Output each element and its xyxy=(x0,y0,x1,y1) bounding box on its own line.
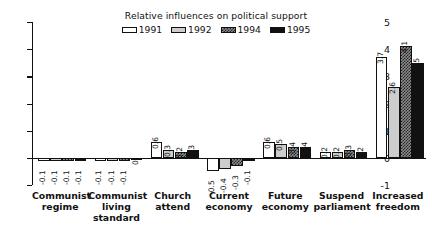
bar[interactable] xyxy=(376,57,388,158)
bar-value-label: -0.1 xyxy=(107,170,116,185)
bar-value-label: 3.5 xyxy=(412,58,421,70)
bar-value-label: -0.3 xyxy=(231,175,240,190)
bar[interactable] xyxy=(388,87,400,158)
bar-value-label: 0.3 xyxy=(187,145,196,157)
chart-root: Relative influences on political support… xyxy=(0,0,432,235)
bar[interactable] xyxy=(75,158,87,161)
bar-value-label: -0.1 xyxy=(38,170,47,185)
category-label: Increasedfreedom xyxy=(370,190,426,212)
bar-value-label: 0.3 xyxy=(344,145,353,157)
bar[interactable] xyxy=(243,158,255,161)
y-axis-line xyxy=(32,22,33,185)
bar-value-label: -0.1 xyxy=(62,170,71,185)
y-tick-2 xyxy=(27,104,32,105)
bar-value-label: 0.2 xyxy=(332,147,341,159)
bar-value-label: 3.7 xyxy=(376,52,385,64)
category-label: Suspendparliament xyxy=(313,190,369,212)
bar[interactable] xyxy=(400,46,412,157)
bar-value-label: 0.5 xyxy=(275,139,284,151)
y-tick-3 xyxy=(27,76,32,77)
y-tick--1 xyxy=(27,185,32,186)
category-label: Churchattend xyxy=(145,190,201,212)
category-label: Communistlivingstandard xyxy=(88,190,144,223)
bar-value-label: 0.4 xyxy=(288,142,297,154)
category-label: Communistregime xyxy=(32,190,88,212)
bar[interactable] xyxy=(207,158,219,172)
bar-value-label: 0 xyxy=(131,160,140,165)
bar-value-label: 0.3 xyxy=(163,145,172,157)
bar-value-label: 0.2 xyxy=(356,147,365,159)
bar-value-label: 0.2 xyxy=(175,147,184,159)
bar[interactable] xyxy=(107,158,119,161)
bar-value-label: -0.1 xyxy=(74,170,83,185)
bar[interactable] xyxy=(38,158,50,161)
bar-value-label: 0.4 xyxy=(300,142,309,154)
plot-area: -1012345 -0.1-0.1-0.1-0.1-0.1-0.1-0.100.… xyxy=(32,22,426,185)
y-tick-5 xyxy=(27,22,32,23)
y-tick-label--1: -1 xyxy=(368,180,390,191)
bar-value-label: 0.6 xyxy=(151,136,160,148)
x-axis-category-labels: CommunistregimeCommunistlivingstandardCh… xyxy=(32,190,426,235)
bar[interactable] xyxy=(231,158,243,166)
bar-value-label: 0.2 xyxy=(320,147,329,159)
y-tick-label-5: 5 xyxy=(368,17,390,28)
bar-value-label: 2.6 xyxy=(388,82,397,94)
bar[interactable] xyxy=(119,158,131,161)
bar[interactable] xyxy=(219,158,231,169)
category-label: Futureeconomy xyxy=(257,190,313,212)
bar[interactable] xyxy=(62,158,74,161)
bar[interactable] xyxy=(50,158,62,161)
category-label: Currenteconomy xyxy=(201,190,257,212)
bar-value-label: -0.1 xyxy=(119,170,128,185)
bar-value-label: -0.1 xyxy=(94,170,103,185)
bar-value-label: 0.6 xyxy=(263,136,272,148)
bar-value-label: -0.1 xyxy=(50,170,59,185)
bar-value-label: 4.1 xyxy=(400,41,409,53)
bar-value-label: -0.1 xyxy=(243,170,252,185)
y-tick-4 xyxy=(27,49,32,50)
y-tick-1 xyxy=(27,131,32,132)
bar[interactable] xyxy=(95,158,107,161)
bar[interactable] xyxy=(412,63,424,158)
